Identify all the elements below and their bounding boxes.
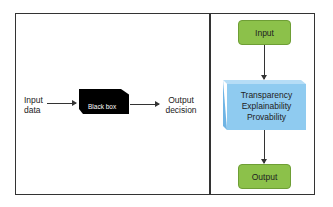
black-box: Black box — [79, 89, 129, 114]
arrow-input-to-blackbox — [47, 103, 76, 104]
output-box-label: Output — [252, 172, 278, 182]
input-data-label-line1: Input — [24, 95, 43, 105]
output-decision-label: Output decision — [162, 95, 200, 115]
output-decision-label-line2: decision — [162, 105, 200, 115]
arrow-input-to-process — [264, 45, 265, 79]
process-box-text: Transparency Explainability Provability — [227, 90, 306, 123]
output-box: Output — [238, 164, 291, 189]
input-box-label: Input — [255, 28, 274, 38]
process-line-explainability: Explainability — [227, 101, 306, 112]
black-box-label: Black box — [88, 103, 116, 110]
output-decision-label-line1: Output — [162, 95, 200, 105]
process-line-transparency: Transparency — [227, 90, 306, 101]
panel-divider — [209, 13, 211, 195]
input-data-label-line2: data — [24, 105, 43, 115]
input-data-label: Input data — [24, 95, 43, 115]
transparency-process-box: Transparency Explainability Provability — [223, 80, 306, 130]
arrow-process-to-output — [264, 130, 265, 163]
process-line-provability: Provability — [227, 112, 306, 123]
input-box: Input — [238, 20, 291, 45]
arrow-blackbox-to-output — [130, 104, 159, 105]
